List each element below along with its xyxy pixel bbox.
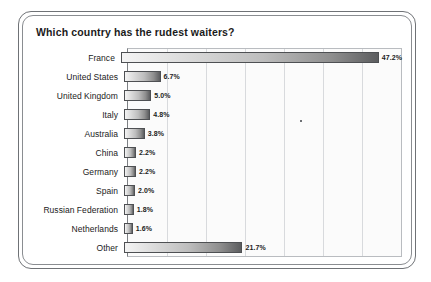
- category-label: Australia: [23, 129, 124, 139]
- category-label: Germany: [23, 167, 124, 177]
- bar-track: 2.0%: [124, 181, 402, 200]
- bar-value-label: 5.0%: [154, 92, 170, 99]
- bar-value-label: 47.2%: [382, 54, 402, 61]
- category-label: China: [23, 148, 124, 158]
- bar-row: Other21.7%: [23, 238, 402, 257]
- bar-track: 21.7%: [124, 238, 402, 257]
- chart-frame: Which country has the rudest waiters? Fr…: [18, 11, 416, 269]
- bar-row: Germany2.2%: [23, 162, 402, 181]
- bar: [124, 128, 145, 139]
- bar-value-label: 2.2%: [139, 168, 155, 175]
- bar-rows: France47.2%United States6.7%United Kingd…: [23, 48, 402, 257]
- bar-value-label: 1.8%: [137, 206, 153, 213]
- bar: [124, 109, 150, 120]
- bar: [124, 185, 135, 196]
- bar-track: 1.8%: [124, 200, 402, 219]
- bar-row: United Kingdom5.0%: [23, 86, 402, 105]
- bar-value-label: 1.6%: [136, 225, 152, 232]
- category-label: Russian Federation: [23, 205, 124, 215]
- bar-value-label: 4.8%: [153, 111, 169, 118]
- bar-value-label: 6.7%: [164, 73, 180, 80]
- bar-row: France47.2%: [23, 48, 402, 67]
- bar: [124, 71, 161, 82]
- bar-track: 2.2%: [124, 162, 402, 181]
- bar-row: China2.2%: [23, 143, 402, 162]
- category-label: Spain: [23, 186, 124, 196]
- bar-track: 3.8%: [124, 124, 402, 143]
- bar-track: 47.2%: [121, 48, 402, 67]
- bar: [124, 204, 134, 215]
- bar: [124, 223, 133, 234]
- bar-row: Netherlands1.6%: [23, 219, 402, 238]
- bar-track: 6.7%: [124, 67, 402, 86]
- bar-track: 1.6%: [124, 219, 402, 238]
- bar-row: Australia3.8%: [23, 124, 402, 143]
- bar-row: Russian Federation1.8%: [23, 200, 402, 219]
- bar-row: United States6.7%: [23, 67, 402, 86]
- bar-track: 4.8%: [124, 105, 402, 124]
- category-label: Other: [23, 243, 124, 253]
- bar: [124, 242, 242, 253]
- bar-row: Spain2.0%: [23, 181, 402, 200]
- category-label: France: [23, 53, 121, 63]
- category-label: United Kingdom: [23, 91, 124, 101]
- bar-value-label: 21.7%: [245, 244, 265, 251]
- bar-track: 2.2%: [124, 143, 402, 162]
- bar: [121, 52, 379, 63]
- bar: [124, 147, 136, 158]
- bar-value-label: 3.8%: [148, 130, 164, 137]
- bar-track: 5.0%: [124, 86, 402, 105]
- category-label: United States: [23, 72, 124, 82]
- bar-row: Italy4.8%: [23, 105, 402, 124]
- bar-value-label: 2.0%: [138, 187, 154, 194]
- bar-value-label: 2.2%: [139, 149, 155, 156]
- bar: [124, 90, 151, 101]
- chart-title: Which country has the rudest waiters?: [36, 26, 235, 38]
- chart-frame-inner-border: Which country has the rudest waiters? Fr…: [22, 15, 412, 265]
- category-label: Italy: [23, 110, 124, 120]
- category-label: Netherlands: [23, 224, 124, 234]
- bar: [124, 166, 136, 177]
